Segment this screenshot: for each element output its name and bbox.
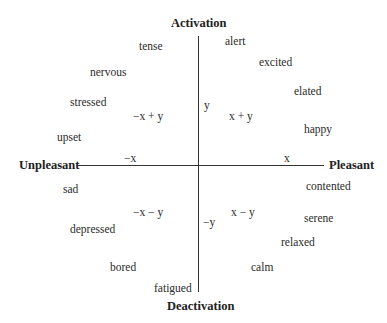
- vector-negx-plus-y: −x + y: [133, 111, 163, 123]
- emotion-calm: calm: [251, 262, 273, 274]
- emotion-bored: bored: [110, 262, 136, 274]
- emotion-serene: serene: [304, 213, 333, 225]
- vector-x: x: [284, 153, 290, 165]
- vector-neg-y: −y: [203, 217, 215, 229]
- arousal-axis-line: [198, 36, 199, 292]
- vector-x-plus-y: x + y: [229, 111, 253, 123]
- vector-negx-minus-y: −x − y: [133, 207, 163, 219]
- emotion-elated: elated: [294, 86, 321, 98]
- vector-neg-x: −x: [124, 153, 136, 165]
- axis-label-activation: Activation: [171, 17, 227, 30]
- emotion-sad: sad: [63, 184, 78, 196]
- emotion-excited: excited: [259, 57, 292, 69]
- valence-axis-line: [78, 165, 324, 166]
- emotion-nervous: nervous: [90, 67, 126, 79]
- emotion-tense: tense: [139, 41, 163, 53]
- emotion-depressed: depressed: [70, 224, 115, 236]
- emotion-alert: alert: [225, 36, 245, 48]
- emotion-happy: happy: [304, 124, 332, 136]
- axis-label-deactivation: Deactivation: [167, 300, 234, 313]
- emotion-fatigued: fatigued: [154, 283, 192, 295]
- emotion-contented: contented: [306, 181, 351, 193]
- emotion-stressed: stressed: [70, 97, 106, 109]
- vector-x-minus-y: x − y: [231, 207, 255, 219]
- axis-label-unpleasant: Unpleasant: [19, 159, 79, 172]
- emotion-upset: upset: [57, 132, 81, 144]
- axis-label-pleasant: Pleasant: [329, 159, 374, 172]
- emotion-relaxed: relaxed: [281, 237, 315, 249]
- vector-y: y: [204, 100, 210, 112]
